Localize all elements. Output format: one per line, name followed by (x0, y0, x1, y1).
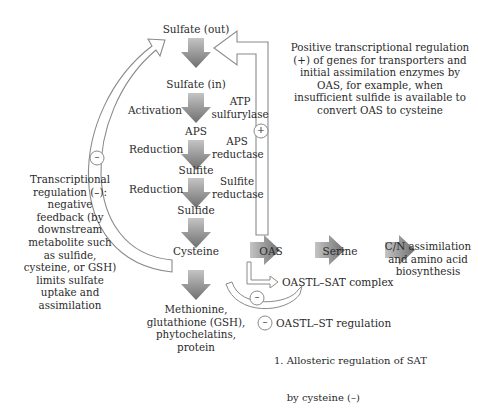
oastl-sat-complex-label: OASTL–SAT complex (282, 276, 394, 289)
metabolite-serine: Serine (320, 245, 360, 258)
positive-regulation-note: Positive transcriptional regulation (+) … (280, 41, 478, 117)
metabolite-sulfate-in: Sulfate (in) (156, 78, 236, 91)
metabolite-sulfate-out: Sulfate (out) (156, 23, 236, 36)
arrow-cysteine-to-products (181, 270, 211, 300)
products-label: Methionine, glutathione (GSH), phytochel… (146, 303, 246, 353)
oastl-st-list: 1. Allosteric regulation of SAT by cyste… (274, 331, 441, 408)
arrow-sulfate-out-to-in (181, 38, 211, 68)
step-reduction-2: Reduction (129, 183, 183, 196)
metabolite-sulfide: Sulfide (170, 204, 222, 217)
metabolite-oas: OAS (256, 245, 286, 258)
metabolite-cysteine: Cysteine (166, 245, 226, 258)
minus-sign-complex: – (251, 291, 263, 304)
enzyme-sulfite-reductase: Sulfite reductase (212, 175, 262, 200)
oastl-st-title: OASTL–ST regulation (276, 317, 391, 330)
step-activation: Activation (128, 104, 182, 117)
enzyme-aps-reductase: APS reductase (212, 135, 262, 160)
negative-regulation-note: Transcriptional regulation (–): negative… (20, 173, 120, 312)
enzyme-atp-sulfurylase: ATP sulfurylase (210, 95, 270, 120)
cn-assimilation-label: C/N assimilation and amino acid biosynth… (378, 240, 478, 278)
arrow-activation (181, 93, 211, 123)
metabolite-aps: APS (176, 125, 216, 138)
minus-sign-left: – (91, 151, 103, 164)
step-reduction-1: Reduction (129, 143, 183, 156)
complex-arrow (247, 262, 278, 288)
minus-sign-oastl: – (259, 316, 271, 329)
arrow-sulfide-to-cysteine (181, 218, 211, 248)
